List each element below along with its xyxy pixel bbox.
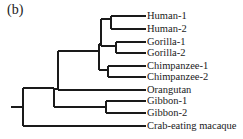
taxon-label-crab-eating-macaque: Crab-eating macaque [147,120,237,131]
taxon-label-chimpanzee-2: Chimpanzee-2 [147,71,208,82]
taxon-label-chimpanzee-1: Chimpanzee-1 [147,60,208,71]
taxon-label-human-1: Human-1 [147,10,187,21]
taxon-label-human-2: Human-2 [147,23,187,34]
taxon-label-gorilla-1: Gorilla-1 [147,36,186,47]
taxon-label-gibbon-2: Gibbon-2 [147,107,187,118]
taxon-label-gorilla-2: Gorilla-2 [147,47,186,58]
taxon-label-gibbon-1: Gibbon-1 [147,95,187,106]
taxon-label-orangutan: Orangutan [147,84,191,95]
